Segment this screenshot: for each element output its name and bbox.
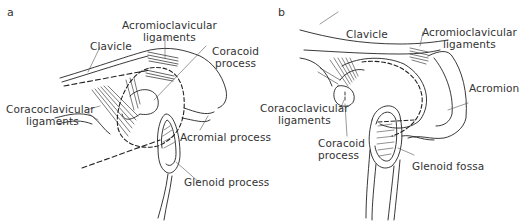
label-line-2: ligaments <box>422 38 517 50</box>
label-line-2: process <box>318 149 365 161</box>
label-coracoid-process-b: Coracoid process <box>318 137 365 161</box>
label-clavicle-a: Clavicle <box>90 40 132 52</box>
label-line-2: process <box>212 57 259 69</box>
label-acromion: Acromion <box>469 82 519 94</box>
panel-a-letter: a <box>7 6 14 19</box>
label-coracoid-process-a: Coracoid process <box>212 45 259 69</box>
label-glenoid-process: Glenoid process <box>184 176 269 188</box>
label-line-2: ligaments <box>6 115 95 127</box>
label-line-1: Coracoclavicular <box>6 103 95 115</box>
label-coracoclavicular-ligaments-b: Coracoclavicular ligaments <box>260 102 349 126</box>
label-line-2: ligaments <box>260 114 349 126</box>
label-glenoid-fossa: Glenoid fossa <box>412 160 484 172</box>
label-line-2: ligaments <box>122 31 217 43</box>
panel-b-letter: b <box>278 6 285 19</box>
label-line-1: Acromioclavicular <box>422 26 517 38</box>
label-acromioclavicular-ligaments-a: Acromioclavicular ligaments <box>122 19 217 43</box>
label-line-1: Coracoid <box>212 45 259 57</box>
label-line-1: Acromioclavicular <box>122 19 217 31</box>
label-clavicle-b: Clavicle <box>346 28 388 40</box>
label-coracoclavicular-ligaments-a: Coracoclavicular ligaments <box>6 103 95 127</box>
label-acromioclavicular-ligaments-b: Acromioclavicular ligaments <box>422 26 517 50</box>
label-acromial-process: Acromial process <box>180 131 271 143</box>
label-line-1: Coracoid <box>318 137 365 149</box>
label-line-1: Coracoclavicular <box>260 102 349 114</box>
